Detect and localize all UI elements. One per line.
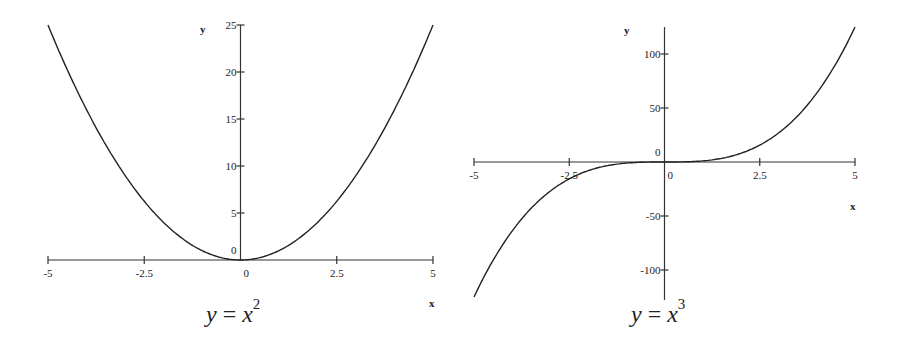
x-tick-label: 2.5 bbox=[330, 267, 344, 279]
y-tick-label: -100 bbox=[640, 264, 661, 276]
x-tick-label: -5 bbox=[469, 169, 479, 181]
caption-base: x bbox=[667, 301, 678, 327]
cubic-plot: -5-2.502.55-100-50050100xy bbox=[469, 24, 858, 300]
x-tick-label: -2.5 bbox=[136, 267, 154, 279]
y-tick-label: 0 bbox=[231, 244, 237, 256]
x-tick-label: 5 bbox=[430, 267, 436, 279]
y-tick-label: 50 bbox=[650, 102, 662, 114]
caption-lhs: y bbox=[631, 301, 642, 327]
x-tick-label: 0 bbox=[244, 267, 250, 279]
x-tick-label: 2.5 bbox=[753, 169, 767, 181]
y-axis-label: y bbox=[624, 24, 630, 36]
parabola-plot: -5-2.502.550510152025xy bbox=[43, 19, 436, 309]
caption-parabola: y=x2 bbox=[206, 300, 260, 328]
x-tick-label: 5 bbox=[852, 169, 858, 181]
y-tick-label: -50 bbox=[646, 210, 661, 222]
y-tick-label: 25 bbox=[226, 19, 238, 31]
caption-cubic: y=x3 bbox=[631, 300, 685, 328]
y-tick-label: 20 bbox=[226, 66, 238, 78]
caption-exponent: 3 bbox=[678, 296, 686, 312]
y-tick-label: 0 bbox=[655, 146, 661, 158]
x-tick-label: 0 bbox=[668, 169, 674, 181]
y-tick-label: 10 bbox=[226, 160, 238, 172]
plots-canvas: -5-2.502.550510152025xy -5-2.502.55-100-… bbox=[0, 0, 902, 360]
x-axis-label: x bbox=[850, 200, 856, 212]
caption-equals: = bbox=[648, 301, 662, 327]
y-tick-label: 5 bbox=[231, 207, 237, 219]
caption-base: x bbox=[242, 301, 253, 327]
y-tick-label: 15 bbox=[226, 113, 238, 125]
x-axis-label: x bbox=[429, 297, 435, 309]
caption-equals: = bbox=[223, 301, 237, 327]
y-axis-label: y bbox=[200, 23, 206, 35]
caption-exponent: 2 bbox=[253, 296, 261, 312]
caption-lhs: y bbox=[206, 301, 217, 327]
y-tick-label: 100 bbox=[644, 48, 661, 60]
x-tick-label: -5 bbox=[43, 267, 53, 279]
